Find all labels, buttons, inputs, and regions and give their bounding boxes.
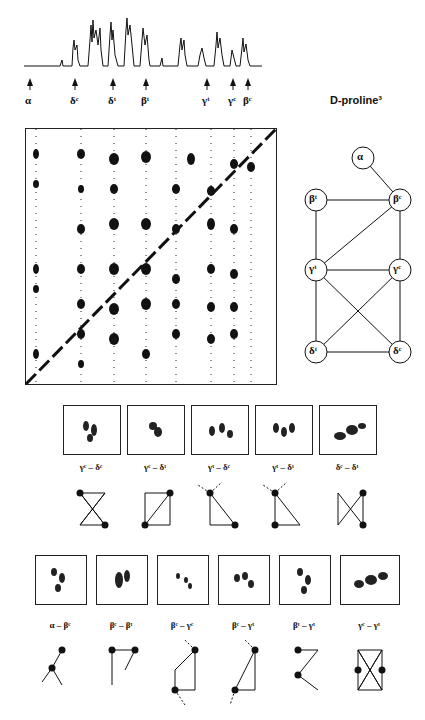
row2-topology-icons [0, 0, 425, 720]
